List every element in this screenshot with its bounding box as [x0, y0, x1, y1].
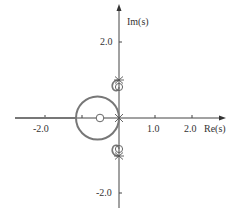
x-axis-label: Re(s): [204, 123, 226, 134]
y-tick-label-neg2: -2.0: [96, 187, 112, 198]
x-tick-label-neg2: -2.0: [33, 123, 49, 134]
imag-axis-arrow-icon: [117, 4, 122, 11]
y-axis-label: Im(s): [127, 16, 149, 27]
root-locus-plot: [0, 0, 241, 218]
zero-marker-real: [96, 114, 104, 122]
real-axis-arrow-icon: [219, 116, 226, 121]
y-tick-label-2: 2.0: [100, 36, 113, 47]
x-tick-label-2: 2.0: [184, 123, 197, 134]
x-tick-label-1: 1.0: [147, 123, 160, 134]
